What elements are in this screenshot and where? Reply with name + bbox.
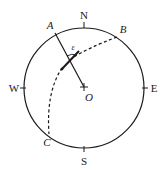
point-O-label: O xyxy=(85,91,93,103)
direction-segment xyxy=(61,51,79,70)
dashed-arc-B-C xyxy=(72,37,117,58)
direction-dot xyxy=(61,68,64,71)
south-label: S xyxy=(81,155,87,167)
diagram-canvas: N S W E A B C O ε xyxy=(0,0,164,170)
point-B-label: B xyxy=(120,23,127,35)
point-C-label: C xyxy=(43,136,51,148)
west-label: W xyxy=(9,82,20,94)
compass-diagram: N S W E A B C O ε xyxy=(0,0,164,170)
north-label: N xyxy=(80,9,88,21)
dashed-arc-lower xyxy=(49,68,62,134)
epsilon-label: ε xyxy=(71,43,75,52)
east-label: E xyxy=(151,82,158,94)
point-A-label: A xyxy=(46,19,54,31)
